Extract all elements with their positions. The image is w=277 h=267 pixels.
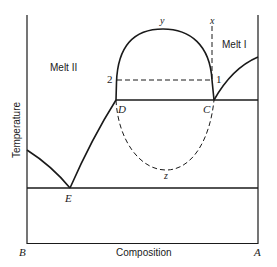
region-melt-i: Melt I [222,40,246,50]
point-label-1: 1 [216,74,222,85]
point-label-2: 2 [107,74,113,85]
liquidus-e-to-d [70,100,116,188]
miscibility-dome [116,29,214,100]
label-b: B [19,247,26,258]
y-axis-label: Temperature [12,95,22,165]
x-axis-label: Composition [116,248,172,258]
metastable-dome-dashed [116,100,214,170]
point-label-y: y [160,16,164,26]
point-label-x: x [210,16,214,26]
region-melt-ii: Melt II [50,63,77,73]
point-label-z: z [164,171,168,181]
point-label-c: C [203,104,210,115]
liquidus-b-to-e [27,150,70,188]
point-label-e: E [65,193,72,204]
label-a: A [254,247,261,258]
point-label-d: D [118,104,126,115]
